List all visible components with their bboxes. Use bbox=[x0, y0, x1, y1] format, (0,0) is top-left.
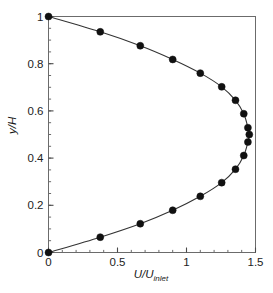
y-axis-title: y/H bbox=[6, 117, 18, 134]
x-axis-title-main: U/U bbox=[134, 268, 154, 280]
x-tick-label: 1 bbox=[183, 256, 189, 268]
x-axis-title: U/Uinlet bbox=[134, 268, 169, 283]
x-axis-title-subscript: inlet bbox=[154, 274, 169, 283]
x-tick-label: 0 bbox=[45, 256, 51, 268]
y-tick-label: 0.4 bbox=[0, 152, 44, 164]
y-axis-title-main: y/H bbox=[6, 117, 18, 134]
y-tick-label: 0.6 bbox=[0, 105, 44, 117]
y-tick-label: 0.8 bbox=[0, 58, 44, 70]
x-tick-label: 1.5 bbox=[248, 256, 264, 268]
figure-container: 00.511.5 00.20.40.60.81 U/Uinlet y/H bbox=[0, 0, 273, 293]
y-tick-label: 0 bbox=[0, 247, 44, 259]
y-tick-label: 1 bbox=[0, 11, 44, 23]
y-tick-label: 0.2 bbox=[0, 199, 44, 211]
major-ticks bbox=[49, 17, 256, 253]
data-line bbox=[49, 17, 250, 253]
minor-ticks bbox=[49, 17, 256, 253]
x-tick-label: 0.5 bbox=[110, 256, 126, 268]
axes-frame bbox=[49, 17, 256, 253]
